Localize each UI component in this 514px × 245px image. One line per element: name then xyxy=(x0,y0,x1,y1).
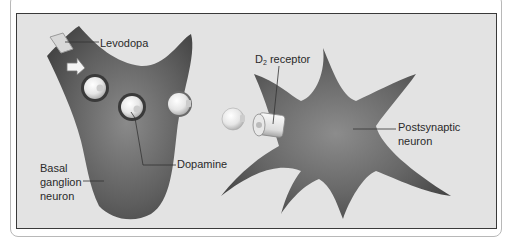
basal-line-1: Basal xyxy=(40,161,82,175)
basal-ganglion-neuron-label: Basal ganglion neuron xyxy=(40,161,82,203)
dopamine-vesicle-1 xyxy=(81,74,109,102)
postsynaptic-line-1: Postsynaptic xyxy=(398,120,460,134)
basal-line-3: neuron xyxy=(40,189,82,203)
dopamine-label: Dopamine xyxy=(177,157,227,171)
d2-prefix: D xyxy=(255,53,263,65)
d2-receptor-icon xyxy=(253,112,285,137)
dopamine-vesicle-releasing xyxy=(166,91,192,117)
dopamine-molecule-free xyxy=(222,108,245,130)
d2-suffix: receptor xyxy=(267,53,310,65)
d2-receptor-label: D2 receptor xyxy=(255,52,310,70)
basal-line-2: ganglion xyxy=(40,175,82,189)
postsynaptic-neuron-label: Postsynaptic neuron xyxy=(398,120,460,148)
dopamine-vesicle-2 xyxy=(118,93,146,121)
levodopa-label: Levodopa xyxy=(100,36,148,50)
postsynaptic-line-2: neuron xyxy=(398,134,460,148)
